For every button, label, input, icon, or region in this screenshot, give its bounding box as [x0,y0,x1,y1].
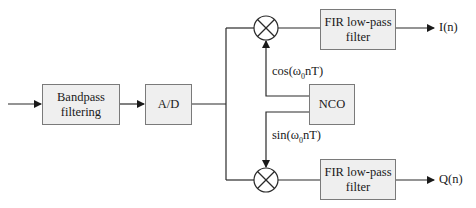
fir-top-block: FIR low-pass filter [320,9,396,50]
output-q-label: Q(n) [439,172,463,187]
cos-signal-label: cos(ω0nT) [272,64,323,81]
fir-bottom-line2: filter [346,180,370,194]
nco-label: NCO [319,97,345,112]
sin-signal-label: sin(ω0nT) [272,128,321,145]
output-i-label: I(n) [439,20,458,35]
fir-bottom-block: FIR low-pass filter [320,159,396,200]
nco-block: NCO [309,84,355,125]
adc-block: A/D [145,84,192,125]
bandpass-label-line1: Bandpass [57,90,105,104]
fir-top-line1: FIR low-pass [324,15,391,29]
fir-bottom-line1: FIR low-pass [324,165,391,179]
fir-top-line2: filter [346,30,370,44]
adc-label: A/D [158,97,180,112]
bandpass-label-line2: filtering [61,105,101,119]
bandpass-filter-block: Bandpass filtering [42,84,120,125]
